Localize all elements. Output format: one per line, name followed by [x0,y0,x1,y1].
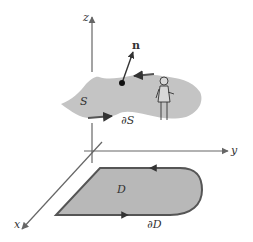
surface-boundary-label: ∂S [121,115,134,126]
z-axis-label: z [83,12,89,23]
region-label: D [117,184,126,195]
normal-label: n [132,40,140,51]
x-axis-label: x [14,219,20,230]
normal-base-point [119,80,125,86]
y-axis-label: y [231,145,237,156]
region-boundary-label: ∂D [147,219,162,230]
region-d [56,168,202,215]
surface-label: S [80,96,88,107]
